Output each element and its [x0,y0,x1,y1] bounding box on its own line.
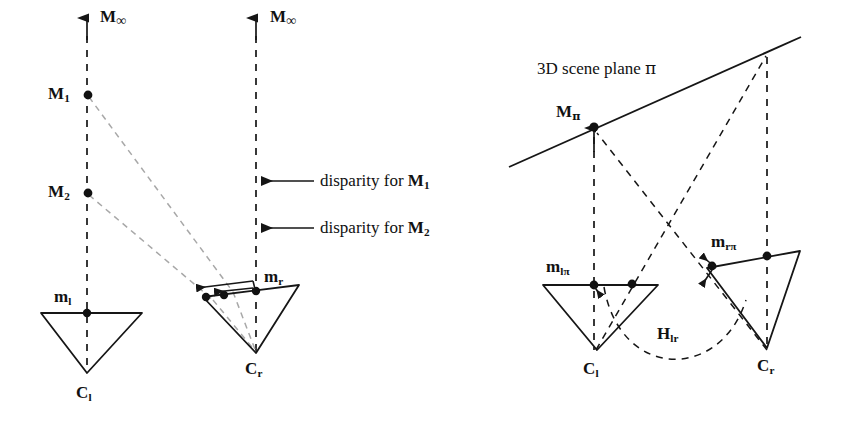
ray-Cr-to-Mpi [597,133,767,350]
point-M1-dot [84,91,93,100]
label-camera-Cr-right-panel: Cr [757,357,774,376]
point-M2-dot [84,189,93,198]
label-camera-Cl-right-panel: Cl [583,360,599,379]
label-disparity-for-M2: disparity for M2 [320,219,429,238]
right-camera-triangle [203,285,299,353]
image-point-ml-dot [83,309,91,317]
figure-canvas: M∞ M∞ M1 M2 ml mr Cl Cr disparity for M1… [0,0,848,431]
label-point-M2: M2 [48,183,70,202]
label-point-Mpi: Mπ [556,103,580,122]
label-m-infinity-left: M∞ [100,8,126,27]
label-image-point-mlpi: mlπ [546,258,570,277]
label-3d-scene-plane: 3D scene plane π [537,60,656,77]
image-point-mr1-dot [202,293,210,301]
label-homography-Hlr: Hlr [657,325,678,344]
label-disparity-for-M1: disparity for M1 [320,172,429,191]
disparity-bracket-1 [197,281,253,288]
right-plane-aux-dot [763,252,772,261]
left-panel-group [41,18,314,373]
point-Mpi-dot [589,122,598,131]
scene-plane-line [509,37,801,167]
label-image-point-mr: mr [264,268,283,287]
ray-M1-to-mr1 [89,97,233,292]
label-camera-Cr-left-panel: Cr [245,360,262,379]
diagram-vector-layer [0,0,848,431]
label-image-point-ml: ml [54,288,71,307]
left-camera-triangle [41,313,142,373]
label-camera-Cl-left-panel: Cl [76,384,92,403]
ray-M2-to-Cr [213,300,256,352]
left-plane-aux-dot [628,280,637,289]
ray-Cl-to-plane-right [596,56,766,350]
right-panel-right-camera-triangle [707,251,800,348]
ray-M1-to-Cr [233,292,256,352]
disparity-bracket-2-riser [253,288,254,292]
homography-arc [604,287,746,359]
label-image-point-mrpi: mrπ [711,233,736,252]
ray-M2-to-mr2 [89,195,213,300]
label-point-M1: M1 [48,85,70,104]
label-m-infinity-right: M∞ [270,8,296,27]
right-panel-group [509,37,801,359]
